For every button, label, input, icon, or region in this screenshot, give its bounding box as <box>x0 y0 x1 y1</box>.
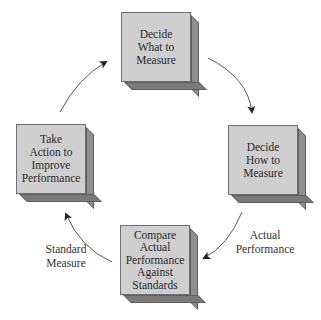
box-front: Decide What to Measure <box>121 12 191 82</box>
box-bottom <box>123 295 206 303</box>
step-text-line: What to <box>136 41 176 54</box>
edge-label-line: Actual <box>226 228 304 242</box>
edge-label-line: Performance <box>226 242 304 256</box>
arrow-top-to-right <box>208 58 252 112</box>
step-text-line: Performance <box>126 254 185 267</box>
step-decide-what-to-measure: Decide What to Measure <box>121 12 193 84</box>
box-front: Decide How to Measure <box>228 125 298 195</box>
step-text-line: Take <box>22 133 81 146</box>
step-text-line: Improve <box>22 159 81 172</box>
step-decide-how-to-measure: Decide How to Measure <box>228 125 300 197</box>
step-text-line: Performance <box>22 172 81 185</box>
step-compare-actual-performance: Compare Actual Performance Against Stand… <box>120 225 192 297</box>
edge-label-standard-measure: Standard Measure <box>36 242 96 270</box>
step-text-line: Decide <box>136 28 176 41</box>
box-bottom <box>19 194 102 202</box>
box-bottom <box>124 82 207 90</box>
step-text-line: Action to <box>22 146 81 159</box>
step-text-line: Actual <box>126 241 185 254</box>
step-take-action-to-improve: Take Action to Improve Performance <box>16 124 88 196</box>
step-text-line: Standards <box>126 279 185 292</box>
edge-label-actual-performance: Actual Performance <box>226 228 304 256</box>
box-front: Compare Actual Performance Against Stand… <box>120 225 190 295</box>
box-bottom <box>231 195 314 203</box>
arrow-left-to-top <box>60 62 106 112</box>
step-text-line: Compare <box>126 229 185 242</box>
step-text-line: Against <box>126 266 185 279</box>
step-text-line: Measure <box>243 167 283 180</box>
edge-label-line: Standard <box>36 242 96 256</box>
step-text-line: Measure <box>136 54 176 67</box>
box-front: Take Action to Improve Performance <box>16 124 86 194</box>
step-text-line: Decide <box>243 141 283 154</box>
step-text-line: How to <box>243 154 283 167</box>
edge-label-line: Measure <box>36 256 96 270</box>
